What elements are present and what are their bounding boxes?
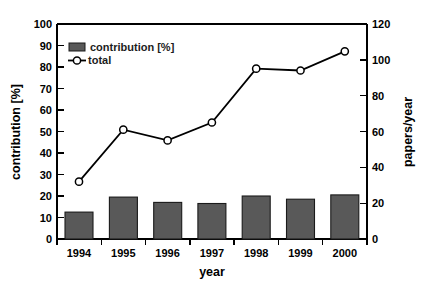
left-axis-ticks (57, 24, 64, 239)
line-series-total (75, 48, 348, 186)
x-tick-label-1998: 1998 (244, 247, 268, 259)
right-tick-label-40: 40 (372, 161, 384, 173)
legend-swatch-contribution (69, 43, 85, 51)
legend-label-contribution: contribution [%] (90, 41, 175, 53)
chart-legend: contribution [%] total (68, 41, 175, 66)
total-point-2000 (341, 48, 348, 55)
bottom-axis-ticks (57, 239, 367, 245)
x-tick-label-1996: 1996 (155, 247, 179, 259)
total-point-1999 (297, 67, 304, 74)
left-tick-label-60: 60 (40, 104, 52, 116)
left-tick-label-30: 30 (40, 169, 52, 181)
bar-1994 (65, 212, 93, 239)
left-tick-label-80: 80 (40, 61, 52, 73)
y-axis-title: contribution [%] (9, 84, 23, 180)
total-point-1996 (164, 137, 171, 144)
total-point-1998 (253, 65, 260, 72)
chart-figure: 0 10 20 30 40 50 60 70 80 90 100 0 20 40 (0, 0, 431, 289)
left-tick-label-70: 70 (40, 83, 52, 95)
right-tick-label-100: 100 (372, 54, 390, 66)
left-tick-label-90: 90 (40, 40, 52, 52)
left-tick-label-20: 20 (40, 190, 52, 202)
legend-label-total: total (88, 54, 111, 66)
chart-container: 0 10 20 30 40 50 60 70 80 90 100 0 20 40 (0, 0, 431, 289)
bar-2000 (331, 195, 359, 239)
x-axis-tick-labels: 1994 1995 1996 1997 1998 1999 2000 (67, 247, 357, 259)
right-tick-label-120: 120 (372, 18, 390, 30)
bar-1997 (198, 204, 226, 240)
total-point-1997 (208, 119, 215, 126)
left-tick-label-100: 100 (34, 18, 52, 30)
left-axis-tick-labels: 0 10 20 30 40 50 60 70 80 90 100 (34, 18, 52, 245)
bar-1995 (109, 197, 137, 239)
x-tick-label-2000: 2000 (333, 247, 357, 259)
bar-series-contribution (65, 195, 359, 239)
right-tick-label-0: 0 (372, 233, 378, 245)
right-axis-tick-labels: 0 20 40 60 80 100 120 (372, 18, 390, 245)
x-tick-label-1997: 1997 (200, 247, 224, 259)
total-point-1995 (120, 126, 127, 133)
x-tick-label-1995: 1995 (111, 247, 135, 259)
bar-1999 (287, 199, 315, 239)
y2-axis-title: papers/year (401, 97, 415, 167)
bar-1996 (154, 202, 182, 239)
left-tick-label-10: 10 (40, 212, 52, 224)
total-point-1994 (75, 178, 82, 185)
right-tick-label-20: 20 (372, 197, 384, 209)
right-tick-label-60: 60 (372, 126, 384, 138)
total-line-path (79, 51, 345, 181)
bar-1998 (242, 196, 270, 239)
right-axis-ticks (360, 24, 367, 239)
legend-marker-total (73, 57, 80, 64)
left-tick-label-40: 40 (40, 147, 52, 159)
x-tick-label-1999: 1999 (288, 247, 312, 259)
x-tick-label-1994: 1994 (67, 247, 92, 259)
left-tick-label-50: 50 (40, 126, 52, 138)
left-tick-label-0: 0 (46, 233, 52, 245)
right-tick-label-80: 80 (372, 90, 384, 102)
x-axis-title: year (199, 265, 225, 279)
